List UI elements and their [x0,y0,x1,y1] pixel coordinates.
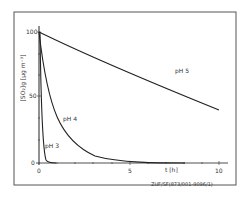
y-tick-0: 0 [31,159,35,166]
label-ph3: pH 3 [45,142,59,150]
x-tick-0: 0 [37,167,41,174]
curve-ph5 [39,32,219,110]
curve-ph4 [39,32,185,163]
x-axis-label: t [h] [165,166,178,173]
chart-frame [14,12,236,185]
y-axis-label: [SO₂]g [µg m⁻³] [19,55,27,102]
x-tick-10: 10 [215,167,223,174]
x-tick-5: 5 [128,167,132,174]
y-tick-100: 100 [26,28,38,35]
label-ph5: pH 5 [175,67,189,75]
label-ph4: pH 4 [63,115,77,123]
figure-code: ZUF/SF(873/001-9096/1) [151,181,213,187]
chart: 100 50 0 0 5 10 t [h] [SO₂]g [µg m⁻³] pH… [0,0,249,197]
y-tick-50: 50 [29,92,37,99]
